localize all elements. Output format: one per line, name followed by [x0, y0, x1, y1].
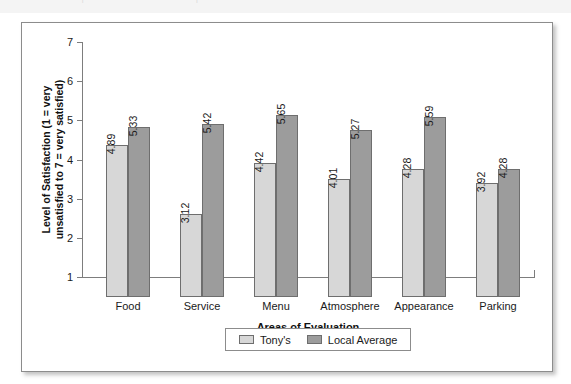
y-axis-tick-label: 4: [67, 154, 73, 166]
bar[interactable]: 4.28: [402, 169, 424, 297]
x-axis-category-label: Service: [165, 300, 239, 312]
bar-value-label: 4.28: [401, 157, 413, 177]
bar-value-label: 5.33: [127, 116, 139, 136]
bar[interactable]: 5.65: [276, 115, 298, 297]
x-axis-category-label: Appearance: [387, 300, 461, 312]
bar-value-label: 4.89: [105, 133, 117, 153]
bar-group: 3.924.28Parking: [461, 62, 535, 297]
bar-group: 3.125.42Service: [165, 62, 239, 297]
y-axis-title-line-1: Level of Satisfaction (1 = very: [40, 86, 52, 234]
x-axis-category-label: Menu: [239, 300, 313, 312]
bar[interactable]: 5.42: [202, 124, 224, 297]
y-axis-tick-label: 1: [67, 271, 73, 283]
bar-value-label: 4.28: [497, 157, 509, 177]
bar-value-label: 4.42: [253, 152, 265, 172]
bar[interactable]: 4.89: [106, 145, 128, 297]
bar[interactable]: 3.92: [476, 183, 498, 297]
chart-figure: Level of Satisfaction (1 = very unsatisf…: [21, 22, 553, 372]
bar[interactable]: 5.59: [424, 117, 446, 297]
y-axis-tick: [77, 81, 82, 82]
bar-value-label: 3.12: [179, 203, 191, 223]
x-axis-category-label: Atmosphere: [313, 300, 387, 312]
bar-group: 4.425.65Menu: [239, 62, 313, 297]
legend-swatch: [307, 335, 322, 344]
legend-swatch: [239, 335, 254, 344]
y-axis-tick: [77, 199, 82, 200]
bar[interactable]: 5.27: [350, 130, 372, 297]
bar-group: 4.015.27Atmosphere: [313, 62, 387, 297]
bar[interactable]: 4.01: [328, 179, 350, 297]
y-axis-title: Level of Satisfaction (1 = very unsatisf…: [36, 42, 70, 277]
bar-value-label: 5.59: [423, 106, 435, 126]
bar[interactable]: 4.42: [254, 163, 276, 297]
x-axis-category-label: Food: [91, 300, 165, 312]
scan-top-strip: · | · |: [0, 0, 571, 13]
y-axis-tick-label: 7: [67, 36, 73, 48]
chart-legend: Tony'sLocal Average: [225, 328, 411, 351]
y-axis-tick: [77, 238, 82, 239]
y-axis-title-line-2: unsatisfied to 7 = very satisfied): [53, 80, 65, 240]
bar-value-label: 5.65: [275, 104, 287, 124]
y-axis-tick: [77, 120, 82, 121]
bar[interactable]: 5.33: [128, 127, 150, 297]
bar[interactable]: 3.12: [180, 214, 202, 297]
legend-label: Tony's: [260, 334, 291, 346]
y-axis-tick-label: 5: [67, 114, 73, 126]
y-axis-line: [82, 42, 83, 277]
bar-value-label: 5.42: [201, 113, 213, 133]
bar-group: 4.895.33Food: [91, 62, 165, 297]
x-axis-category-label: Parking: [461, 300, 535, 312]
y-axis-tick: [77, 277, 82, 278]
y-axis-tick: [77, 42, 82, 43]
bar-value-label: 5.27: [349, 119, 361, 139]
bar-value-label: 4.01: [327, 168, 339, 188]
y-axis-tick: [77, 160, 82, 161]
y-axis-tick-label: 3: [67, 193, 73, 205]
legend-label: Local Average: [328, 334, 398, 346]
y-axis-tick-label: 2: [67, 232, 73, 244]
scan-ghost-text: · | · |: [24, 0, 224, 3]
bar-group: 4.285.59Appearance: [387, 62, 461, 297]
bar-value-label: 3.92: [475, 171, 487, 191]
legend-item[interactable]: Tony's: [239, 334, 291, 346]
legend-item[interactable]: Local Average: [307, 334, 398, 346]
plot-area: 1234567 4.895.33Food3.125.42Service4.425…: [82, 42, 534, 297]
y-axis-tick-label: 6: [67, 75, 73, 87]
bar[interactable]: 4.28: [498, 169, 520, 297]
